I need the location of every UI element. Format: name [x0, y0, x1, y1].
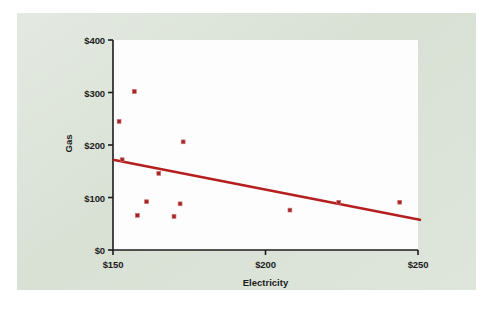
y-tick-label: $100: [55, 192, 105, 203]
trendline: [113, 160, 421, 220]
x-tick-label: $250: [408, 259, 429, 270]
data-points: [117, 90, 401, 219]
y-tick-label: $0: [55, 245, 105, 256]
y-tick-label: $300: [55, 87, 105, 98]
x-tick-label: $150: [103, 259, 124, 270]
x-tick-label: $200: [255, 259, 276, 270]
y-axis-title: Gas: [63, 109, 74, 179]
y-tick-label: $400: [55, 35, 105, 46]
axes: [108, 40, 418, 255]
chart-canvas: [0, 0, 493, 318]
scatter-plot-figure: $0$100$200$300$400 $150$200$250 Gas Elec…: [0, 0, 493, 318]
x-axis-title: Electricity: [206, 277, 326, 288]
